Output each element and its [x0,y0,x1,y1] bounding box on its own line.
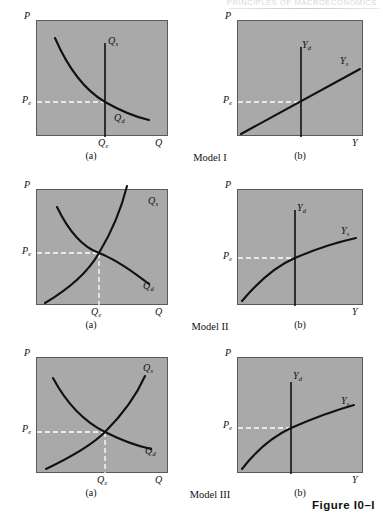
subcaption-model1-a: (a) [76,150,106,161]
curve-y-supply [242,238,356,301]
header-rule [229,8,379,9]
model-caption-3: Model III [170,489,250,500]
chart-panel-model1-a [36,20,168,136]
axis-label-quantity-model1-a: Q [155,138,162,148]
curve-label-q-supply-model1-a: Qs [108,36,118,46]
axis-label-price-eq-model3-a: Pe [22,424,31,434]
axis-label-income-model3-b: Y [352,475,358,485]
chart-svg-model1-b [238,21,364,137]
curve-label-q-demand-model1-a: Qd [114,113,124,123]
curve-label-y-demand-model2-b: Yd [297,203,306,213]
curve-label-q-supply-model2-a: Qs [148,196,158,206]
model-caption-1: Model I [170,152,250,163]
axis-label-price-eq-model1-b: Pe [223,95,232,105]
curve-q-demand [55,38,149,120]
axis-label-price-eq-model3-b: Pe [223,420,232,430]
subcaption-model2-b: (b) [285,319,315,330]
axis-label-price-model1-a: P [24,11,30,21]
chart-panel-model1-b [237,20,363,136]
subcaption-model3-b: (b) [285,487,315,498]
curve-label-q-supply-model3-a: Qs [143,363,153,373]
subcaption-model3-a: (a) [76,487,106,498]
axis-label-quantity-eq-model1-a: Qe [98,138,108,148]
chart-svg-model3-a [37,358,169,474]
curve-label-y-supply-model3-b: Ys [341,396,349,406]
axis-label-price-eq-model2-a: Pe [22,246,31,256]
curve-y-supply [242,405,354,469]
axis-label-price-model3-a: P [24,348,30,358]
axis-label-quantity-model2-a: Q [155,307,162,317]
curve-label-q-demand-model3-a: Qd [145,446,155,456]
curve-q-supply [45,186,127,303]
chart-svg-model1-a [37,21,169,137]
curve-label-y-demand-model3-b: Yd [293,371,302,381]
axis-label-quantity-eq-model3-a: Qe [97,475,107,485]
figure-caption: Figure I0–I [312,499,375,511]
axis-label-price-model2-a: P [24,180,30,190]
axis-label-price-model1-b: P [225,11,231,21]
axis-label-quantity-eq-model2-a: Qe [91,307,101,317]
axis-label-quantity-model3-a: Q [155,475,162,485]
subcaption-model2-a: (a) [76,319,106,330]
curve-label-y-supply-model1-b: Ys [340,56,348,66]
axis-label-price-model3-b: P [225,348,231,358]
axis-label-price-model2-b: P [225,180,231,190]
subcaption-model1-b: (b) [285,150,315,161]
figure-page: PRINCIPLES OF MACROECONOMICS P Pe Q Qe Q… [0,0,383,519]
axis-label-income-model1-b: Y [352,138,358,148]
curve-label-y-demand-model1-b: Yd [302,40,311,50]
axis-label-income-model2-b: Y [352,307,358,317]
curve-label-q-demand-model2-a: Qd [143,281,153,291]
axis-label-price-eq-model2-b: Pe [223,251,232,261]
model-caption-2: Model II [170,321,250,332]
curve-q-demand [53,378,151,449]
running-head: PRINCIPLES OF MACROECONOMICS [227,0,377,7]
curve-label-y-supply-model2-b: Ys [341,226,349,236]
axis-label-price-eq-model1-a: Pe [22,95,31,105]
